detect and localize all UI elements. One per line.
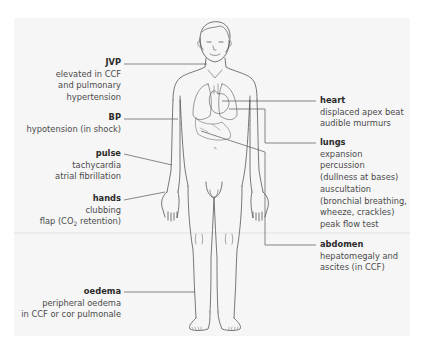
bp-title: BP: [27, 112, 121, 124]
hands-leader-line: [124, 192, 165, 200]
abdomen-title: abdomen: [320, 239, 398, 251]
oedema-title: oedema: [21, 286, 121, 298]
label-bp: BP hypotension (in shock): [27, 112, 121, 135]
lungs-line-3: (dullness at bases): [320, 172, 407, 184]
abdomen-line-2: ascites (in CCF): [320, 262, 398, 274]
hands-line-1: clubbing: [40, 205, 121, 217]
label-jvp: JVP elevated in CCF and pulmonary hypert…: [56, 57, 121, 104]
oedema-line-2: in CCF or cor pulmonale: [21, 309, 121, 321]
lungs-line-4: auscultation: [320, 184, 407, 196]
lungs-line-6: wheeze, crackles): [320, 207, 407, 219]
jvp-line-1: elevated in CCF: [56, 69, 121, 81]
pulse-leader-line: [124, 154, 172, 165]
label-abdomen: abdomen hepatomegaly and ascites (in CCF…: [320, 239, 398, 274]
lungs-line-1: expansion: [320, 149, 407, 161]
hands-line-2: flap (CO2 retention): [40, 216, 121, 228]
heart-line-1: displaced apex beat: [320, 107, 404, 119]
pulse-line-2: atrial fibrillation: [55, 171, 121, 183]
lungs-title: lungs: [320, 137, 407, 149]
lungs-line-7: peak flow test: [320, 219, 407, 231]
oedema-line-1: peripheral oedema: [21, 298, 121, 310]
label-hands: hands clubbing flap (CO2 retention): [40, 193, 121, 228]
jvp-line-2: and pulmonary: [56, 80, 121, 92]
heart-title: heart: [320, 95, 404, 107]
label-oedema: oedema peripheral oedema in CCF or cor p…: [21, 286, 121, 321]
head-icon: [198, 22, 232, 62]
lungs-leader-line: [229, 109, 316, 143]
jvp-line-3: hypertension: [56, 92, 121, 104]
label-heart: heart displaced apex beat audible murmur…: [320, 95, 404, 130]
heart-line-2: audible murmurs: [320, 118, 404, 130]
bp-line-1: hypotension (in shock): [27, 124, 121, 136]
jvp-title: JVP: [56, 57, 121, 69]
abdomen-line-1: hepatomegaly and: [320, 251, 398, 263]
hands-title: hands: [40, 193, 121, 205]
lungs-line-2: percussion: [320, 160, 407, 172]
pulse-title: pulse: [55, 148, 121, 160]
lungs-line-5: (bronchial breathing,: [320, 196, 407, 208]
label-pulse: pulse tachycardia atrial fibrillation: [55, 148, 121, 183]
pulse-line-1: tachycardia: [55, 160, 121, 172]
label-lungs: lungs expansion percussion (dullness at …: [320, 137, 407, 231]
